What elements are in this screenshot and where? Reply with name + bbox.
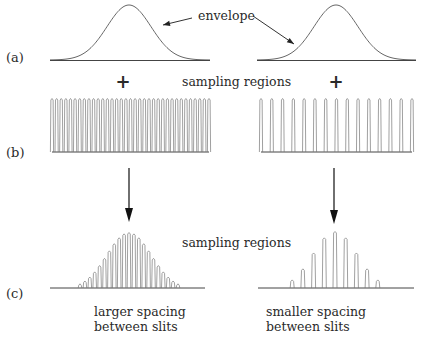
result-left-peak	[147, 251, 151, 288]
comb-right-peak	[292, 99, 295, 153]
result-left-peak	[132, 234, 136, 288]
comb-left-peak	[50, 99, 53, 153]
comb-left	[50, 99, 210, 153]
comb-left-peak	[138, 99, 141, 153]
comb-left-peak	[152, 99, 155, 153]
comb-left-peak	[97, 99, 100, 153]
comb-right-peak	[270, 99, 273, 153]
envelope-left	[50, 5, 210, 60]
envelope-arrow-right-head	[287, 38, 294, 44]
comb-right-peak	[281, 99, 284, 153]
result-left-peak	[152, 258, 156, 288]
comb-left-peak	[69, 99, 72, 153]
comb-right	[259, 99, 413, 153]
comb-right-peak	[313, 99, 316, 153]
result-left-peak	[103, 258, 107, 288]
diffraction-sampling-diagram: (a) (b) (c) envelope + + sampling region…	[0, 0, 423, 346]
comb-left-peak	[124, 99, 127, 153]
result-left-peak	[98, 266, 102, 288]
result-left-peak	[117, 238, 121, 288]
result-right-peak	[312, 253, 316, 288]
result-right-peak	[333, 232, 337, 289]
comb-left-peak	[180, 99, 183, 153]
envelope-right	[257, 5, 416, 60]
down-arrows	[125, 168, 338, 224]
down-arrow-right-head	[330, 210, 338, 224]
right-caption-line1: smaller spacing	[266, 304, 366, 319]
row-label-a: (a)	[6, 50, 24, 65]
comb-left-peak	[166, 99, 169, 153]
comb-left-peak	[92, 99, 95, 153]
comb-left-peak	[106, 99, 109, 153]
comb-right-peak	[367, 99, 370, 153]
comb-left-peak	[175, 99, 178, 153]
comb-left-peak	[198, 99, 201, 153]
row-label-b: (b)	[6, 145, 24, 160]
envelope-arrow-right	[253, 16, 294, 44]
result-left-peak	[113, 244, 117, 288]
result-left-peak	[142, 244, 146, 288]
comb-right-peak	[346, 99, 349, 153]
comb-left-peak	[78, 99, 81, 153]
down-arrow-left-head	[125, 208, 133, 222]
result-left-peak	[122, 234, 126, 288]
envelope-label: envelope	[198, 8, 255, 23]
comb-left-peak	[87, 99, 90, 153]
comb-right-peak	[303, 99, 306, 153]
comb-left-peak	[161, 99, 164, 153]
comb-left-peak	[64, 99, 67, 153]
comb-right-peak	[259, 99, 262, 153]
left-caption-line2: between slits	[94, 319, 178, 334]
result-right-peak	[376, 280, 380, 288]
comb-left-peak	[129, 99, 132, 153]
result-left-peak	[108, 251, 112, 288]
comb-left-peak	[203, 99, 206, 153]
sampling-regions-label-top: sampling regions	[182, 74, 291, 89]
result-left-peak	[176, 284, 180, 288]
comb-left-peak	[110, 99, 113, 153]
comb-left-peak	[157, 99, 160, 153]
comb-left-peak	[134, 99, 137, 153]
result-left-peak	[127, 233, 131, 289]
result-right-peak	[301, 269, 305, 288]
comb-left-peak	[83, 99, 86, 153]
comb-left-peak	[115, 99, 118, 153]
result-left-peak	[166, 277, 170, 288]
comb-right-peak	[400, 99, 403, 153]
result-right-peak	[344, 238, 348, 288]
slit-combs	[50, 99, 413, 153]
comb-right-peak	[410, 99, 413, 153]
comb-right-peak	[335, 99, 338, 153]
comb-left-peak	[147, 99, 150, 153]
result-left-peak	[157, 266, 161, 288]
comb-left-peak	[170, 99, 173, 153]
result-left-peak	[78, 284, 82, 288]
result-left-peak	[88, 277, 92, 288]
result-left-peak	[93, 272, 97, 288]
comb-right-peak	[378, 99, 381, 153]
right-caption-line2: between slits	[266, 319, 350, 334]
envelope-arrow-left-head	[163, 21, 170, 26]
plus-sign-right: +	[328, 71, 343, 92]
comb-left-peak	[194, 99, 197, 153]
plus-sign-left: +	[115, 71, 130, 92]
comb-left-peak	[207, 99, 210, 153]
result-left-peak	[83, 281, 87, 288]
comb-left-peak	[55, 99, 58, 153]
comb-right-peak	[356, 99, 359, 153]
comb-left-peak	[143, 99, 146, 153]
row-label-c: (c)	[6, 286, 23, 301]
comb-right-peak	[324, 99, 327, 153]
comb-left-peak	[73, 99, 76, 153]
result-right-peak	[365, 269, 369, 288]
left-caption-line1: larger spacing	[94, 304, 186, 319]
comb-left-peak	[120, 99, 123, 153]
result-right-peak	[322, 238, 326, 288]
result-left-peak	[137, 238, 141, 288]
comb-left-peak	[184, 99, 187, 153]
comb-left-peak	[101, 99, 104, 153]
comb-left-peak	[60, 99, 63, 153]
comb-right-peak	[389, 99, 392, 153]
result-left-peak	[162, 272, 166, 288]
result-right-peak	[354, 253, 358, 288]
